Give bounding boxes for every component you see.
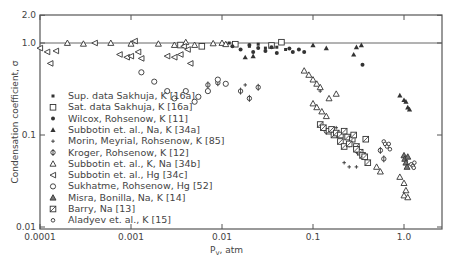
y-axis-label: Condensation coefficient, σ	[10, 60, 20, 183]
series-2	[230, 43, 364, 67]
legend-item: Subbotin et. al., Na, K [34a]	[50, 124, 200, 135]
legend-label: Misra, Bonilla, Na, K [14]	[68, 192, 185, 203]
legend-label: Subbotin et. al., K, Na [34b]	[68, 158, 200, 169]
legend-item: Subbotin et. al., K, Na [34b]	[50, 158, 200, 169]
series-9	[401, 152, 411, 169]
series-4	[243, 83, 358, 169]
y-tick-label: 0.1	[22, 130, 36, 140]
x-tick-label: 0.0001	[24, 232, 56, 242]
x-axis-label: Pv, atm	[210, 245, 243, 257]
legend-label: Sat. data Sakhuja, K [16a]	[68, 101, 193, 112]
legend-label: Morin, Meyrial, Rohsenow, K [85]	[68, 135, 225, 146]
legend-label: Barry, Na [13]	[68, 203, 135, 214]
condensation-coefficient-chart: 0.00010.0010.010.11.00.010.11.02.0 Sup. …	[0, 0, 452, 259]
y-tick-label: 0.01	[16, 222, 36, 232]
series-7	[37, 38, 193, 66]
legend-item: Wilcox, Rohsenow, K [11]	[51, 113, 188, 124]
legend-item: Aladyev et. al., K [15]	[51, 214, 171, 225]
legend-item: Misra, Bonilla, Na, K [14]	[50, 192, 185, 203]
x-tick-label: 1.0	[397, 232, 412, 242]
y-tick-label: 2.0	[22, 10, 37, 20]
legend-label: Aladyev et. al., K [15]	[68, 214, 171, 225]
legend-item: Kroger, Rohsenow, K [12]	[51, 147, 189, 158]
legend-label: Sukhatme, Rohsenow, Hg [52]	[68, 180, 212, 191]
y-tick-label: 1.0	[22, 38, 37, 48]
x-tick-label: 0.01	[212, 232, 232, 242]
legend-item: Subbotin et. al., Hg [34c]	[50, 169, 187, 180]
legend-label: Sup. data Sakhuja, K [16a]	[68, 90, 195, 101]
legend-label: Subbotin et. al., Hg [34c]	[68, 169, 187, 180]
legend-item: Barry, Na [13]	[50, 203, 135, 214]
legend-item: Morin, Meyrial, Rohsenow, K [85]	[51, 135, 224, 146]
series-10	[317, 122, 370, 166]
x-tick-label: 0.001	[118, 232, 144, 242]
series-11	[382, 140, 416, 170]
legend-item: Sukhatme, Rohsenow, Hg [52]	[50, 180, 212, 191]
legend-label: Subbotin et. al., Na, K [34a]	[68, 124, 200, 135]
legend-label: Wilcox, Rohsenow, K [11]	[68, 113, 188, 124]
x-tick-label: 0.1	[306, 232, 320, 242]
legend: Sup. data Sakhuja, K [16a]Sat. data Sakh…	[50, 90, 225, 225]
legend-item: Sat. data Sakhuja, K [16a]	[50, 101, 192, 112]
legend-label: Kroger, Rohsenow, K [12]	[68, 147, 189, 158]
legend-item: Sup. data Sakhuja, K [16a]	[52, 90, 196, 101]
